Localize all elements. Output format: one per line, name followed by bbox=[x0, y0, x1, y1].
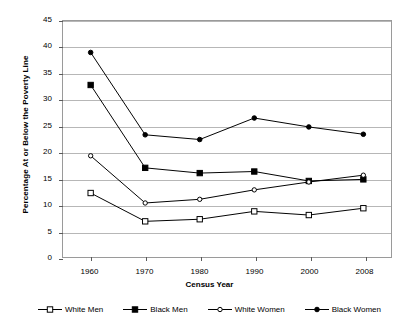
legend-item-black-women[interactable]: Black Women bbox=[305, 305, 381, 314]
data-point bbox=[197, 137, 202, 142]
x-tick-label: 2008 bbox=[345, 268, 385, 276]
data-point bbox=[306, 212, 311, 217]
x-tickmark bbox=[146, 257, 147, 261]
data-point bbox=[143, 201, 147, 205]
x-tickmark bbox=[91, 257, 92, 261]
series-black-women bbox=[88, 50, 365, 142]
x-axis-title: Census Year bbox=[0, 280, 419, 289]
legend-label: Black Men bbox=[150, 305, 187, 314]
data-point bbox=[88, 154, 92, 158]
y-tick-label: 10 bbox=[26, 201, 52, 209]
legend-label: White Women bbox=[235, 305, 285, 314]
data-point bbox=[197, 217, 202, 222]
series-line bbox=[91, 156, 364, 203]
data-point bbox=[143, 133, 148, 138]
data-point bbox=[88, 50, 93, 55]
x-tickmark bbox=[366, 257, 367, 261]
series-plot bbox=[63, 21, 391, 257]
poverty-line-chart: Percentage At or Below the Poverty Line … bbox=[0, 0, 419, 331]
x-tick-label: 1990 bbox=[235, 268, 275, 276]
y-tick-label: 25 bbox=[26, 122, 52, 130]
data-point bbox=[252, 209, 257, 214]
data-point bbox=[252, 188, 256, 192]
x-tickmark bbox=[311, 257, 312, 261]
chart-legend: White MenBlack MenWhite WomenBlack Women bbox=[0, 305, 419, 314]
legend-marker-icon bbox=[208, 305, 232, 314]
data-point bbox=[252, 169, 257, 174]
series-line bbox=[91, 193, 364, 221]
series-white-women bbox=[88, 154, 365, 206]
x-tickmark bbox=[256, 257, 257, 261]
plot-area bbox=[62, 20, 392, 258]
y-tick-label: 35 bbox=[26, 69, 52, 77]
legend-marker-icon bbox=[305, 305, 329, 314]
data-point bbox=[197, 170, 202, 175]
y-tickmark bbox=[59, 259, 63, 260]
x-tickmark bbox=[201, 257, 202, 261]
data-point bbox=[198, 197, 202, 201]
data-point bbox=[143, 165, 148, 170]
y-axis-title: Percentage At or Below the Poverty Line bbox=[21, 20, 30, 250]
y-tick-label: 45 bbox=[26, 16, 52, 24]
series-line bbox=[91, 52, 364, 139]
data-point bbox=[143, 219, 148, 224]
data-point bbox=[361, 206, 366, 211]
series-black-men bbox=[88, 82, 366, 183]
y-tick-label: 5 bbox=[26, 228, 52, 236]
x-tick-label: 2000 bbox=[290, 268, 330, 276]
x-tick-label: 1960 bbox=[70, 268, 110, 276]
x-tick-label: 1970 bbox=[125, 268, 165, 276]
y-tick-label: 20 bbox=[26, 148, 52, 156]
legend-item-black-men[interactable]: Black Men bbox=[123, 305, 187, 314]
legend-marker-icon bbox=[123, 305, 147, 314]
data-point bbox=[88, 190, 93, 195]
series-white-men bbox=[88, 190, 366, 224]
legend-marker-icon bbox=[38, 305, 62, 314]
x-tick-label: 1980 bbox=[180, 268, 220, 276]
legend-label: White Men bbox=[65, 305, 103, 314]
data-point bbox=[361, 173, 365, 177]
legend-item-white-men[interactable]: White Men bbox=[38, 305, 103, 314]
series-line bbox=[91, 85, 364, 181]
y-tick-label: 40 bbox=[26, 42, 52, 50]
data-point bbox=[307, 125, 312, 130]
data-point bbox=[88, 82, 93, 87]
legend-label: Black Women bbox=[332, 305, 381, 314]
y-tick-label: 30 bbox=[26, 95, 52, 103]
y-tick-label: 15 bbox=[26, 175, 52, 183]
y-tick-label: 0 bbox=[26, 254, 52, 262]
legend-item-white-women[interactable]: White Women bbox=[208, 305, 285, 314]
data-point bbox=[307, 180, 311, 184]
data-point bbox=[361, 132, 366, 137]
data-point bbox=[252, 116, 257, 121]
